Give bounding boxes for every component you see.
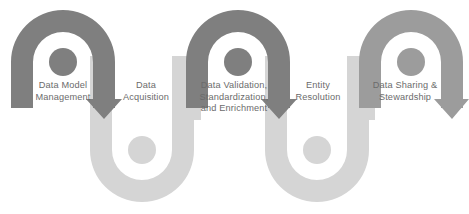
center-dot-data-validation: [224, 48, 252, 76]
center-dot-data-model-management: [49, 48, 77, 76]
flow-graphic: [0, 0, 469, 214]
center-dot-entity-resolution: [303, 136, 331, 164]
arrow-down-icon: [434, 78, 469, 119]
center-dot-data-sharing-stewardship: [397, 48, 425, 76]
center-dot-data-acquisition: [128, 136, 156, 164]
arrow-5-down: [434, 78, 469, 119]
process-flow-diagram: Data Model Management Data Acquisition D…: [0, 0, 469, 214]
